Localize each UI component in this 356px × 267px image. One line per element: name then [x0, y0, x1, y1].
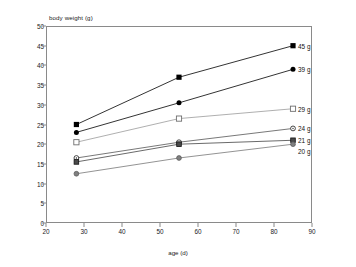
series-label-20-g: 20 g — [298, 148, 310, 155]
x-tick-mark — [198, 223, 199, 227]
y-tick-label: 45 — [4, 42, 44, 49]
series-label-45-g: 45 g — [298, 42, 310, 49]
y-tick-mark — [42, 203, 46, 204]
x-tick-mark — [236, 223, 237, 227]
x-tick-mark — [274, 223, 275, 227]
series-label-21-g: 21 g — [298, 137, 310, 144]
y-axis-title: body weight (g) — [49, 14, 93, 21]
x-tick-label: 20 — [42, 228, 49, 235]
x-axis-title: age (d) — [0, 249, 356, 256]
x-tick-label: 30 — [80, 228, 87, 235]
y-tick-label: 25 — [4, 121, 44, 128]
series-label-29-g: 29 g — [298, 105, 310, 112]
x-tick-label: 80 — [270, 228, 277, 235]
chart-container: body weight (g) 05101520253035404550 203… — [0, 0, 356, 267]
y-tick-label: 35 — [4, 82, 44, 89]
y-tick-label: 5 — [4, 200, 44, 207]
y-tick-label: 10 — [4, 180, 44, 187]
x-tick-mark — [122, 223, 123, 227]
y-tick-mark — [42, 144, 46, 145]
x-tick-mark — [160, 223, 161, 227]
y-tick-mark — [42, 65, 46, 66]
x-tick-mark — [312, 223, 313, 227]
y-tick-label: 30 — [4, 101, 44, 108]
y-axis-ticks: 05101520253035404550 — [0, 0, 44, 267]
y-tick-label: 40 — [4, 62, 44, 69]
x-tick-label: 40 — [118, 228, 125, 235]
y-tick-label: 15 — [4, 160, 44, 167]
series-label-24-g: 24 g — [298, 125, 310, 132]
y-tick-mark — [42, 85, 46, 86]
series-label-39-g: 39 g — [298, 66, 310, 73]
x-tick-mark — [84, 223, 85, 227]
y-tick-label: 20 — [4, 141, 44, 148]
y-tick-mark — [42, 104, 46, 105]
y-tick-label: 0 — [4, 220, 44, 227]
x-tick-label: 60 — [194, 228, 201, 235]
y-tick-mark — [42, 26, 46, 27]
x-tick-label: 90 — [308, 228, 315, 235]
y-tick-mark — [42, 163, 46, 164]
x-tick-label: 70 — [232, 228, 239, 235]
plot-area — [46, 26, 312, 223]
y-tick-label: 50 — [4, 23, 44, 30]
y-tick-mark — [42, 45, 46, 46]
x-tick-label: 50 — [156, 228, 163, 235]
x-tick-mark — [46, 223, 47, 227]
y-tick-mark — [42, 183, 46, 184]
y-tick-mark — [42, 124, 46, 125]
